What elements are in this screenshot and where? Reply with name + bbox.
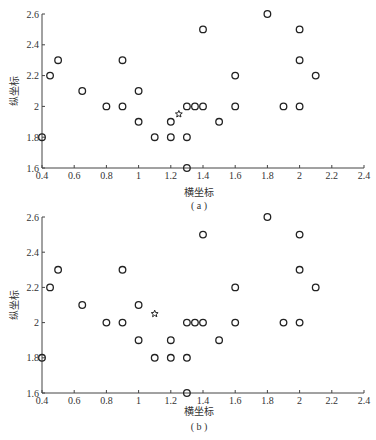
x-tick-label: 1.4	[197, 170, 210, 181]
data-point-circle	[296, 231, 303, 238]
data-point-circle	[296, 26, 303, 33]
data-point-circle	[192, 103, 199, 110]
y-tick-label: 2.2	[27, 282, 40, 293]
data-point-star	[175, 111, 182, 118]
data-point-circle	[232, 103, 239, 110]
data-point-circle	[151, 355, 158, 362]
x-tick-label: 1.2	[165, 395, 178, 406]
data-point-circle	[200, 319, 207, 326]
x-tick-label: 1.6	[229, 170, 242, 181]
y-tick-label: 1.8	[27, 352, 40, 363]
data-point-circle	[119, 57, 126, 64]
data-point-circle	[280, 103, 287, 110]
axis-lines	[42, 14, 364, 168]
data-point-circle	[103, 319, 110, 326]
data-point-circle	[232, 284, 239, 291]
x-tick-label: 2.4	[358, 395, 371, 406]
data-point-circle	[216, 119, 223, 126]
data-point-circle	[200, 26, 207, 33]
data-point-circle	[168, 134, 175, 141]
y-tick-label: 2	[34, 101, 39, 112]
x-tick-label: 1.8	[261, 395, 274, 406]
data-point-circle	[312, 72, 319, 79]
x-tick-label: 2.2	[326, 170, 339, 181]
data-point-circle	[168, 119, 175, 126]
data-point-circle	[296, 267, 303, 274]
y-tick-label: 2.4	[27, 39, 40, 50]
x-tick-label: 1.6	[229, 395, 242, 406]
x-tick-label: 0.8	[100, 395, 113, 406]
x-tick-label: 0.4	[36, 170, 49, 181]
y-tick-label: 2.6	[27, 212, 40, 223]
data-point-circle	[232, 319, 239, 326]
data-point-circle	[184, 103, 191, 110]
data-point-circle	[135, 88, 142, 95]
x-tick-label: 1.4	[197, 395, 210, 406]
x-tick-label: 0.8	[100, 170, 113, 181]
x-tick-label: 2.2	[326, 395, 339, 406]
data-point-circle	[103, 103, 110, 110]
data-point-circle	[216, 337, 223, 344]
y-tick-label: 1.8	[27, 132, 40, 143]
data-point-star	[151, 310, 158, 317]
y-tick-label: 2.2	[27, 70, 40, 81]
y-tick-label: 2.6	[27, 9, 40, 20]
data-point-circle	[47, 72, 54, 79]
data-point-circle	[264, 11, 271, 18]
data-point-circle	[55, 267, 62, 274]
data-point-circle	[135, 119, 142, 126]
data-point-circle	[312, 284, 319, 291]
data-point-circle	[168, 355, 175, 362]
data-point-circle	[184, 134, 191, 141]
data-point-circle	[184, 319, 191, 326]
data-point-circle	[296, 57, 303, 64]
subfigure-caption: ( a )	[191, 200, 207, 212]
y-axis-label: 纵坐标	[9, 290, 20, 320]
data-point-circle	[264, 214, 271, 221]
x-tick-label: 2	[297, 170, 302, 181]
data-point-circle	[168, 337, 175, 344]
data-point-circle	[119, 103, 126, 110]
data-point-circle	[192, 319, 199, 326]
data-point-circle	[200, 103, 207, 110]
x-axis-label: 横坐标	[184, 186, 214, 198]
x-tick-label: 1.2	[165, 170, 178, 181]
x-tick-label: 2	[297, 395, 302, 406]
data-point-circle	[119, 267, 126, 274]
data-point-circle	[55, 57, 62, 64]
x-tick-label: 0.6	[68, 170, 81, 181]
axis-lines	[42, 217, 364, 393]
subfigure-caption: ( b )	[191, 421, 208, 433]
scatter-plot-a: 1.61.822.22.42.60.40.60.811.21.41.61.822…	[9, 9, 370, 213]
scatter-chart-figure: 1.61.822.22.42.60.40.60.811.21.41.61.822…	[0, 0, 376, 440]
x-tick-label: 1.8	[261, 170, 274, 181]
x-tick-label: 0.6	[68, 395, 81, 406]
x-tick-label: 1	[136, 395, 141, 406]
y-axis-label: 纵坐标	[9, 76, 20, 106]
data-point-circle	[232, 72, 239, 79]
data-point-circle	[119, 319, 126, 326]
data-point-circle	[200, 231, 207, 238]
data-point-circle	[135, 337, 142, 344]
data-point-circle	[280, 319, 287, 326]
x-axis-label: 横坐标	[184, 405, 214, 417]
data-point-circle	[296, 103, 303, 110]
x-tick-label: 2.4	[358, 170, 371, 181]
data-point-circle	[135, 302, 142, 309]
y-tick-label: 2	[34, 317, 39, 328]
x-tick-label: 1	[136, 170, 141, 181]
data-point-circle	[296, 319, 303, 326]
data-point-circle	[79, 88, 86, 95]
y-tick-label: 2.4	[27, 247, 40, 258]
scatter-plot-b: 1.61.822.22.42.60.40.60.811.21.41.61.822…	[9, 212, 370, 434]
data-point-circle	[184, 355, 191, 362]
data-point-circle	[47, 284, 54, 291]
data-point-circle	[151, 134, 158, 141]
x-tick-label: 0.4	[36, 395, 49, 406]
data-point-circle	[79, 302, 86, 309]
